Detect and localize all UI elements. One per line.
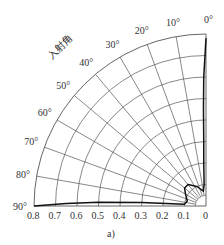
angular-tick-labels: 0°10°20°30°40°50°60°70°80°90°	[13, 14, 213, 212]
angle-tick-label: 90°	[13, 201, 27, 212]
angle-tick-label: 50°	[56, 80, 70, 91]
grid-radial-line	[44, 147, 196, 202]
figure-caption: a)	[107, 228, 115, 240]
angle-tick-label: 70°	[24, 136, 38, 147]
radial-tick-label: 0.3	[135, 210, 148, 221]
data-curve	[34, 38, 206, 206]
angle-tick-label: 30°	[106, 39, 120, 50]
polar-chart: 0°10°20°30°40°50°60°70°80°90° 0.80.70.60…	[0, 0, 224, 245]
series-line	[34, 38, 206, 206]
radial-tick-label: 0.5	[92, 210, 105, 221]
radial-tick-label: 0.2	[156, 210, 169, 221]
radial-tick-label: 0.8	[27, 210, 40, 221]
angle-tick-label: 60°	[38, 107, 52, 118]
angle-tick-label: 80°	[16, 169, 30, 180]
angle-tick-label: 40°	[79, 57, 93, 68]
grid-radial-line	[147, 44, 202, 196]
angle-tick-label: 20°	[135, 25, 149, 36]
radial-tick-label: 0	[203, 210, 208, 221]
radial-tick-label: 0.7	[49, 210, 62, 221]
radial-tick-label: 0.1	[178, 210, 191, 221]
radial-tick-labels: 0.80.70.60.50.40.30.20.10	[27, 210, 208, 221]
radial-tick-label: 0.4	[113, 210, 126, 221]
angle-tick-label: 10°	[166, 17, 180, 28]
radial-tick-label: 0.6	[70, 210, 83, 221]
grid-arc-inner	[195, 195, 206, 206]
polar-grid	[34, 34, 206, 206]
angle-tick-label: 0°	[204, 14, 213, 25]
angular-axis-label: 入射角	[46, 32, 75, 61]
